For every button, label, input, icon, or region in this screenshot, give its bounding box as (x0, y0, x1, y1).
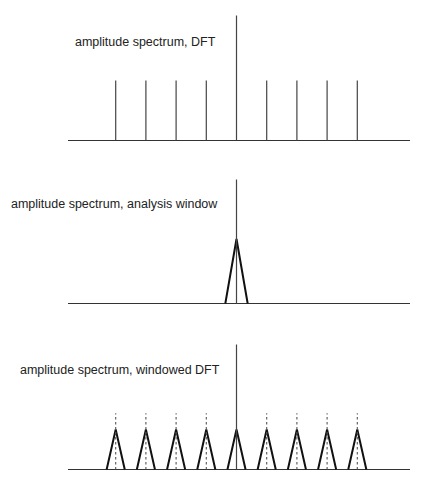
panel-title-window: amplitude spectrum, analysis window (11, 197, 218, 211)
panel-dft: amplitude spectrum, DFT (68, 16, 410, 141)
marks-window (225, 180, 247, 304)
panel-title-windowed: amplitude spectrum, windowed DFT (20, 363, 220, 377)
spectrum-figure: amplitude spectrum, DFT amplitude spectr… (0, 0, 428, 485)
panel-windowed: amplitude spectrum, windowed DFT (20, 345, 410, 470)
panel-window: amplitude spectrum, analysis window (11, 180, 410, 304)
panel-title-dft: amplitude spectrum, DFT (75, 35, 216, 49)
